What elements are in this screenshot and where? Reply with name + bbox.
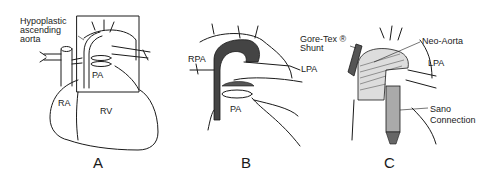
rpa-vessel: [190, 64, 214, 74]
pa-ring-bottom: [91, 62, 111, 67]
label-hypoplastic-3: aorta: [20, 34, 41, 44]
leader-hypoplastic: [78, 36, 84, 40]
pa-ring-top: [91, 56, 111, 61]
lpa-branch: [112, 46, 150, 60]
sano-tip: [386, 132, 400, 144]
panel-label-a: A: [93, 154, 103, 171]
panel-label-c: C: [384, 154, 395, 171]
ra-rv-border: [77, 92, 79, 140]
rpa-stub: [40, 52, 61, 62]
label-lpa: LPA: [428, 58, 444, 68]
panel-a: Hypoplastic ascending aorta PA RA RV A: [20, 16, 158, 171]
surgical-diagram: Hypoplastic ascending aorta PA RA RV A R…: [0, 0, 496, 180]
label-sano-2: Connection: [430, 115, 476, 125]
inset-box: [77, 16, 139, 92]
lpa-vessel: [234, 62, 302, 82]
panel-label-b: B: [241, 154, 251, 171]
label-sano-1: Sano: [430, 104, 451, 114]
neo-aorta: [358, 49, 408, 100]
label-pa: PA: [230, 104, 241, 114]
ra-outline: [208, 110, 214, 130]
label-lpa: LPA: [301, 64, 317, 74]
sano-conduit: [386, 86, 400, 132]
svc: [61, 50, 72, 86]
panel-b: RPA LPA PA B: [188, 24, 317, 171]
label-goretex-2: Shunt: [300, 43, 324, 53]
label-rpa: RPA: [188, 54, 206, 64]
label-rv: RV: [100, 106, 112, 116]
label-neoaorta: Neo-Aorta: [422, 36, 463, 46]
panel-c: Gore-Tex ® Shunt Neo-Aorta LPA Sano Conn…: [300, 26, 476, 171]
arch-branches: [84, 20, 136, 60]
svc-top: [61, 47, 72, 52]
label-ra: RA: [58, 98, 71, 108]
label-pa: PA: [92, 70, 103, 80]
rv-outflow: [115, 66, 139, 90]
pa-suture: [222, 82, 254, 87]
rv-outline: [252, 98, 300, 146]
pa-stump: [222, 90, 252, 98]
